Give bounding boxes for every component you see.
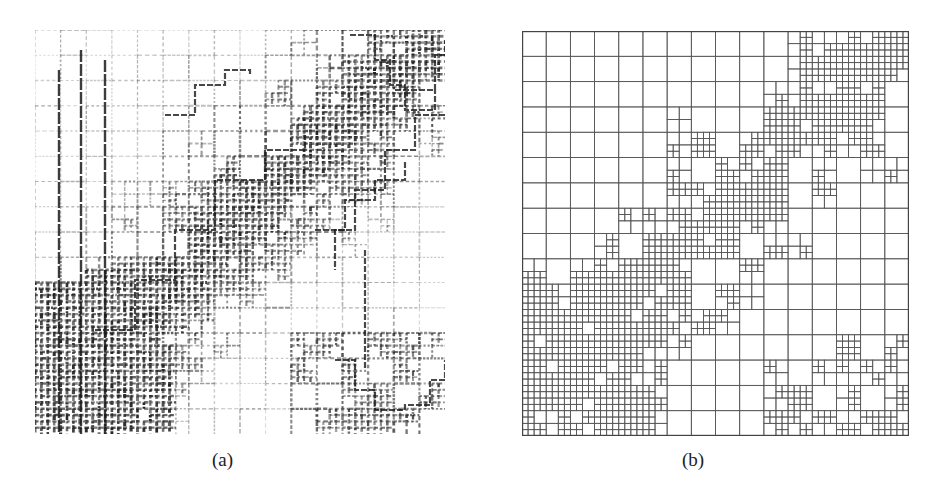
figure-panel-a-image <box>35 30 445 434</box>
figure-panel-b-grid <box>522 31 909 436</box>
caption-a: (a) <box>212 449 233 471</box>
quadtree-overlay-image <box>35 30 445 434</box>
caption-b: (b) <box>682 449 704 471</box>
quadtree-grid <box>522 31 909 436</box>
